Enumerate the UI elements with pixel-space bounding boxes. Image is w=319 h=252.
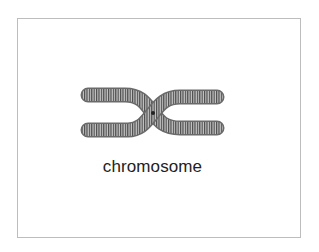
centromere (151, 111, 155, 115)
chromosome-illustration (0, 0, 319, 252)
diagram-label: chromosome (0, 157, 305, 177)
